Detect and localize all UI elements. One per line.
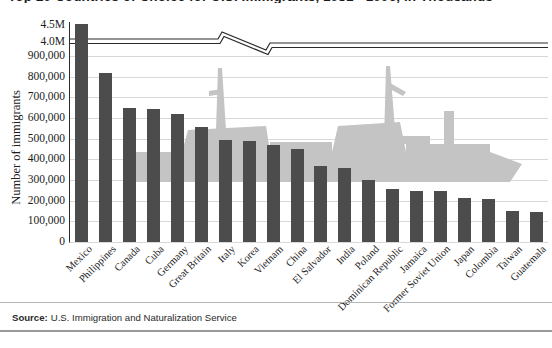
y-tick-label: 400,000 [28,154,65,166]
bar-india [338,168,351,242]
page-title: Top 20 Countries of Choice for U.S. Immi… [8,0,552,3]
y-tick-label: 200,000 [28,195,65,207]
immigration-bar-chart-figure: Top 20 Countries of Choice for U.S. Immi… [0,0,552,348]
bar-colombia [482,199,495,242]
bar-vietnam [267,145,280,242]
y-tick-label: 300,000 [28,174,65,186]
bar-overflow-mexico [75,24,88,56]
y-tick-label: 600,000 [28,112,65,124]
bar-italy [219,140,232,242]
divider-bottom [0,330,552,332]
bar-guatemala [530,212,543,242]
bar-canada [123,108,136,242]
source-label: Source: [12,312,48,323]
bar-el-salvador [314,166,327,242]
y-tick-label: 100,000 [28,216,65,228]
y-axis-title: Number of immigrants [9,58,24,238]
bar-japan [458,198,471,242]
y-tick-label: 900,000 [28,50,65,62]
bar-former-soviet-union [434,191,447,242]
bar-poland [362,180,375,242]
divider-top [0,302,552,303]
axis-break-zigzag-icon [70,22,548,56]
bar-jamaica [410,191,423,242]
gridline [70,242,548,243]
y-tick-label-4-5m: 4.5M [40,19,65,31]
y-tick-label: 700,000 [28,92,65,104]
bars-layer [70,56,548,242]
source-text: U.S. Immigration and Naturalization Serv… [51,312,237,323]
bar-china [291,149,304,242]
bar-taiwan [506,211,519,242]
bar-great-britain [195,127,208,242]
bar-mexico [75,56,88,242]
bar-korea [243,141,256,242]
y-tick-label: 0 [59,236,65,248]
y-tick-label: 500,000 [28,133,65,145]
plot-area: 0100,000200,000300,000400,000500,000600,… [70,56,548,242]
y-tick-label: 800,000 [28,71,65,83]
bar-philippines [99,73,112,242]
y-tick-label-4-0m: 4.0M [40,36,65,48]
source-line: Source:U.S. Immigration and Naturalizati… [12,312,237,323]
x-axis-category-labels: MexicoPhilippinesCanadaCubaGermanyGreat … [70,244,548,306]
x-label-canada: Canada [112,244,142,274]
bar-germany [171,114,184,242]
axis-break-band: 4.5M 4.0M [70,22,548,56]
bar-cuba [147,109,160,242]
bar-dominican-republic [386,189,399,242]
